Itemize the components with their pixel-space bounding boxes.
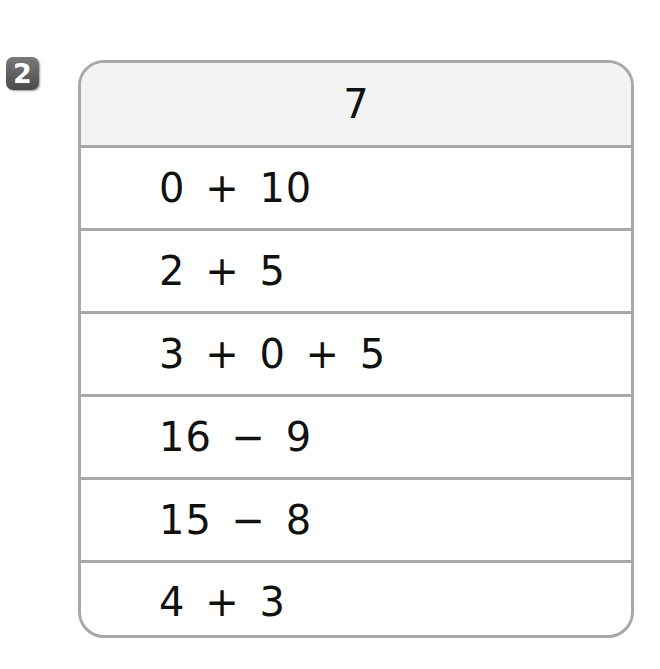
table-row[interactable]: 4 + 3 bbox=[81, 563, 631, 638]
table-row[interactable]: 16 − 9 bbox=[81, 397, 631, 480]
table-header-target-value: 7 bbox=[81, 63, 631, 148]
table-row[interactable]: 3 + 0 + 5 bbox=[81, 314, 631, 397]
problem-number-badge: 2 bbox=[6, 57, 39, 90]
table-row[interactable]: 2 + 5 bbox=[81, 231, 631, 314]
expression-table: 7 0 + 10 2 + 5 3 + 0 + 5 16 − 9 15 − 8 4… bbox=[78, 60, 634, 638]
table-row[interactable]: 15 − 8 bbox=[81, 480, 631, 563]
table-row[interactable]: 0 + 10 bbox=[81, 148, 631, 231]
